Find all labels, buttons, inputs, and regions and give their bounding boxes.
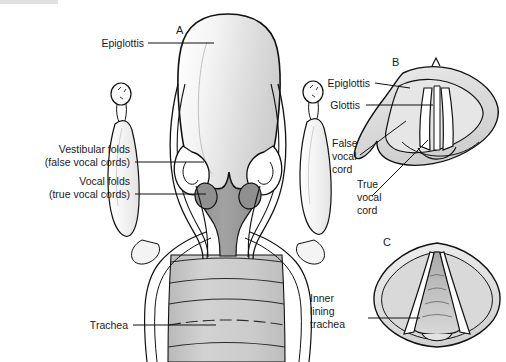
panel-label-b: B — [392, 56, 399, 68]
label-vocal-folds-line2: (true vocal cords) — [18, 188, 130, 201]
label-false-vocal-cord-line1: False — [332, 137, 358, 150]
label-epiglottis-b: Epiglottis — [300, 77, 370, 90]
panel-a-coronal-larynx — [108, 14, 331, 362]
label-true-vocal-cord-line1: True — [357, 178, 378, 191]
top-edge-artifact — [0, 0, 58, 4]
label-glottis-b: Glottis — [300, 99, 360, 112]
label-false-vocal-cord-line3: cord — [332, 163, 352, 176]
label-inner-lining-line1: Inner — [310, 292, 334, 305]
panel-label-c: C — [383, 236, 391, 248]
label-epiglottis-a: Epiglottis — [62, 37, 144, 50]
label-true-vocal-cord-line2: vocal — [357, 191, 382, 204]
panel-b-laryngoscopic-closed — [354, 58, 498, 196]
label-inner-lining-line3: trachea — [310, 318, 345, 331]
panel-c-laryngoscopic-open — [368, 243, 500, 347]
label-trachea: Trachea — [56, 319, 128, 332]
right-cricoid-blade — [300, 119, 331, 235]
label-inner-lining-line2: lining — [310, 305, 335, 318]
trachea-body — [168, 255, 285, 362]
label-true-vocal-cord-line3: cord — [357, 204, 377, 217]
panel-b-notch — [432, 58, 440, 66]
right-lateral-wedge — [296, 240, 324, 264]
label-false-vocal-cord-line2: vocal — [332, 150, 357, 163]
left-arytenoid-head — [111, 83, 131, 105]
label-vocal-folds-line1: Vocal folds — [18, 175, 130, 188]
panel-b-glottis-slit — [434, 86, 440, 150]
panel-label-a: A — [176, 24, 183, 36]
label-vestibular-folds-line1: Vestibular folds — [18, 143, 130, 156]
left-lateral-wedge — [131, 240, 159, 264]
label-vestibular-folds-line2: (false vocal cords) — [18, 156, 130, 169]
